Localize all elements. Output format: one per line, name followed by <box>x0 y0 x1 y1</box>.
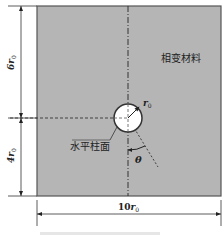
arrow-left <box>37 212 42 216</box>
arrow-up-top <box>19 6 23 11</box>
width-dimension-label: 10r0 <box>118 202 139 213</box>
caption-strip <box>40 232 160 235</box>
arrow-down-mid <box>19 113 23 118</box>
svg-text:6r0: 6r0 <box>6 55 17 70</box>
bottom-height-dimension-label: 4r0 <box>6 148 17 163</box>
arrow-down-bottom <box>19 191 23 196</box>
theta-label: θ <box>135 154 142 165</box>
top-height-dimension-label: 6r0 <box>6 55 17 70</box>
phase-change-material-region <box>37 6 221 196</box>
diagram-canvas: 相变材料 水平柱面 r0 θ 6r0 4r0 10r0 <box>0 0 224 239</box>
arrow-right <box>216 212 221 216</box>
cylinder-label: 水平柱面 <box>70 140 110 152</box>
svg-text:4r0: 4r0 <box>6 148 17 163</box>
arrow-up-mid <box>19 118 23 123</box>
material-label: 相变材料 <box>161 52 201 64</box>
